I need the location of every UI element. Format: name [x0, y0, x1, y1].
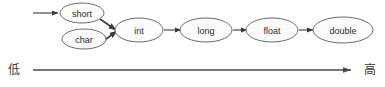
- node-double[interactable]: double: [313, 17, 373, 43]
- node-char-label: char: [75, 35, 93, 45]
- node-long[interactable]: long: [180, 18, 232, 42]
- node-char[interactable]: char: [62, 29, 106, 49]
- axis-right-label: 高: [364, 62, 376, 77]
- type-conversion-diagram: short char int long float double 低 高: [0, 0, 385, 87]
- short-to-int-arrow-icon: [100, 19, 116, 30]
- node-double-label: double: [329, 26, 356, 36]
- node-short[interactable]: short: [60, 3, 104, 23]
- node-long-label: long: [197, 26, 214, 36]
- node-float[interactable]: float: [246, 18, 298, 42]
- diagram-canvas: short char int long float double 低 高: [0, 0, 385, 87]
- node-int-label: int: [134, 26, 144, 36]
- node-float-label: float: [263, 26, 281, 36]
- axis-left-label: 低: [8, 63, 20, 77]
- node-short-label: short: [72, 9, 93, 19]
- node-int[interactable]: int: [115, 18, 163, 42]
- edge-short-to-int: [100, 19, 116, 30]
- precision-axis: 低 高: [8, 62, 376, 77]
